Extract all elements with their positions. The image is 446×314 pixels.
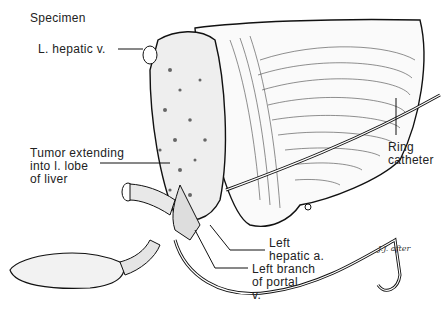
specimen-illustration: Specimen L. hepatic v. Tumor extending i… <box>0 0 446 314</box>
label-catheter-2: catheter <box>388 154 434 167</box>
artist-signature: J.J. after <box>378 244 410 253</box>
figure-title: Specimen <box>30 12 86 25</box>
label-hepatic-vein: L. hepatic v. <box>38 43 106 56</box>
label-tumor-3: of liver <box>30 173 68 186</box>
label-portal-3: v. <box>252 289 261 302</box>
